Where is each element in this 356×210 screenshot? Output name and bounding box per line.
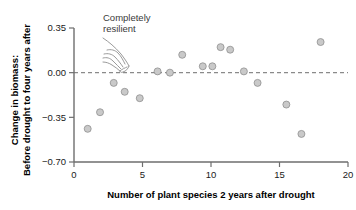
x-tick-label: 15 xyxy=(274,169,285,180)
data-point xyxy=(240,68,247,75)
data-point xyxy=(283,101,290,108)
y-axis-title-line1: Change in biomass: xyxy=(9,55,20,145)
x-tick-label: 5 xyxy=(140,169,145,180)
data-point xyxy=(227,46,234,53)
y-tick-label: 0.35 xyxy=(48,22,67,33)
x-tick-label: 0 xyxy=(71,169,76,180)
data-point xyxy=(298,130,305,137)
annotation-line1: Completely xyxy=(103,12,151,23)
x-axis-title: Number of plant species 2 years after dr… xyxy=(107,189,315,200)
annotation-line2: resilient xyxy=(103,23,136,34)
y-tick-label: −0.70 xyxy=(42,156,66,167)
data-point xyxy=(84,125,91,132)
data-point xyxy=(209,63,216,70)
x-tick-label: 10 xyxy=(206,169,217,180)
y-tick-label: −0.35 xyxy=(42,112,66,123)
data-point xyxy=(166,69,173,76)
data-point xyxy=(154,68,161,75)
y-tick-label: 0.00 xyxy=(48,67,67,78)
data-point xyxy=(136,95,143,102)
data-point xyxy=(110,79,117,86)
data-point xyxy=(217,44,224,51)
data-point xyxy=(254,79,261,86)
x-tick-label: 20 xyxy=(343,169,354,180)
scatter-chart: 0.350.00−0.35−0.70 05101520 Completely r… xyxy=(0,0,356,210)
y-axis-title-line2: Before drought to four years after xyxy=(21,24,32,176)
data-point xyxy=(199,63,206,70)
data-point xyxy=(317,39,324,46)
data-point xyxy=(97,109,104,116)
data-point xyxy=(121,88,128,95)
data-point xyxy=(179,51,186,58)
